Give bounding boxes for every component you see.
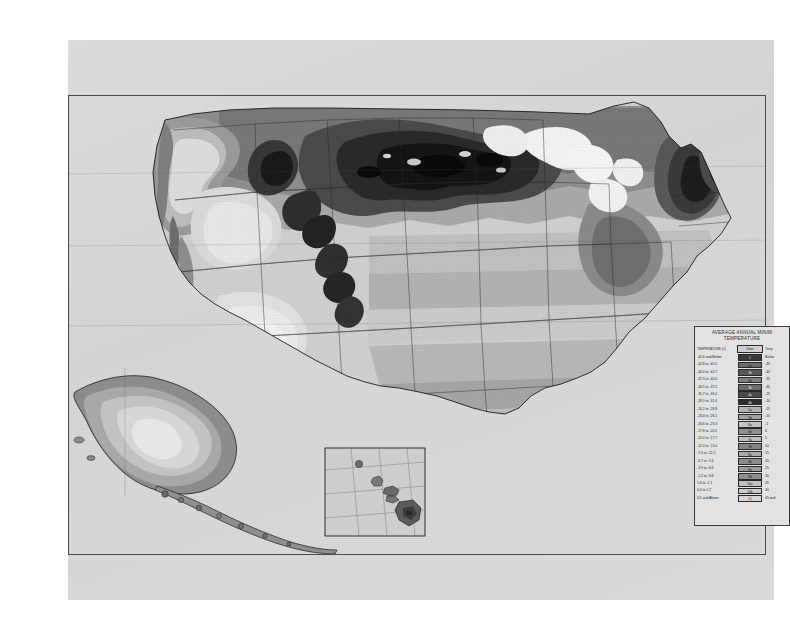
legend-temperature-f: 35 xyxy=(763,480,790,487)
legend-color-swatch: 1 xyxy=(738,354,762,361)
hawaii-inset xyxy=(325,448,425,536)
legend-color-swatch: 11 xyxy=(738,495,762,502)
legend-color-swatch: 8b xyxy=(738,458,762,465)
legend-header-row: TEMPERATURE (C) Zone Temp xyxy=(695,344,790,354)
legend-color-swatch: 8a xyxy=(738,451,762,458)
legend-header-temperature-f: Temp xyxy=(763,344,790,354)
legend-temperature-f: -15 xyxy=(763,406,790,413)
legend-temperature-f: 20 xyxy=(763,458,790,465)
legend-temperature-f: -20 xyxy=(763,398,790,405)
legend-temperature-c: -37.3 to -40.0 xyxy=(695,376,737,383)
legend-title-line1: AVERAGE ANNUAL MINIM xyxy=(712,330,772,335)
legend-temperature-f: -10 xyxy=(763,413,790,420)
legend-color-swatch: 9b xyxy=(738,473,762,480)
legend-zone-cell: 10a xyxy=(737,480,763,487)
legend-color-swatch: 6a xyxy=(738,421,762,428)
legend-temperature-c: -15.0 to -17.7 xyxy=(695,435,737,442)
legend-temperature-c: -34.5 to -37.2 xyxy=(695,384,737,391)
legend-temperature-f: -5 xyxy=(763,421,790,428)
legend-temperature-c: -6.7 to -9.4 xyxy=(695,458,737,465)
legend-temperature-f: 15 xyxy=(763,450,790,457)
legend-temperature-c: 4.4 to 1.7 xyxy=(695,487,737,494)
legend-temperature-f: -40 xyxy=(763,369,790,376)
legend-row: -1.2 to -3.89b30 xyxy=(695,473,790,480)
legend-temperature-c: -17.8 to -20.5 xyxy=(695,428,737,435)
legend-zone-cell: 7a xyxy=(737,435,763,442)
legend-row: -17.8 to -20.56b0 xyxy=(695,428,790,435)
legend-row: -15.0 to -17.77a5 xyxy=(695,435,790,442)
legend-color-swatch: 3a xyxy=(738,377,762,384)
legend-temperature-c: -9.5 to -12.2 xyxy=(695,450,737,457)
legend-color-swatch: 10a xyxy=(738,480,762,487)
legend-temperature-c: -42.8 to -45.5 xyxy=(695,361,737,368)
legend-zone-cell: 5a xyxy=(737,406,763,413)
legend-color-swatch: 7a xyxy=(738,436,762,443)
alaska-inset xyxy=(74,368,337,554)
legend-temperature-c: -45.6 and Below xyxy=(695,354,737,361)
legend-color-swatch: 2b xyxy=(738,369,762,376)
legend-zone-cell: 4a xyxy=(737,391,763,398)
legend-temperature-c: -40.0 to -42.7 xyxy=(695,369,737,376)
legend-color-swatch: 4a xyxy=(738,391,762,398)
legend-temperature-f: 0 xyxy=(763,428,790,435)
legend-row: -34.5 to -37.23b-30 xyxy=(695,384,790,391)
hardiness-zone-map xyxy=(69,96,765,554)
legend-temperature-c: -31.7 to -34.4 xyxy=(695,391,737,398)
legend-temperature-f: 5 xyxy=(763,435,790,442)
legend-color-swatch: 10b xyxy=(738,488,762,495)
legend-temperature-c: -12.3 to -15.0 xyxy=(695,443,737,450)
legend-temperature-f: -45 xyxy=(763,361,790,368)
legend-zone-cell: 3a xyxy=(737,376,763,383)
legend-zone-cell: 2a xyxy=(737,361,763,368)
legend-row: 4.4 to 1.710b40 xyxy=(695,487,790,494)
legend-temperature-f: 40 xyxy=(763,487,790,494)
legend-zone-cell: 6a xyxy=(737,421,763,428)
legend-temperature-f: -25 xyxy=(763,391,790,398)
legend-zone-cell: 4b xyxy=(737,398,763,405)
legend-header-zone-box: Zone xyxy=(737,345,763,353)
legend-temperature-c: -20.6 to -23.3 xyxy=(695,421,737,428)
legend-temperature-f: 45 and xyxy=(763,495,790,502)
legend-header-zone: Zone xyxy=(737,344,763,354)
legend-temperature-f: 25 xyxy=(763,465,790,472)
legend-temperature-c: 4.5 and Above xyxy=(695,495,737,502)
legend-temperature-f: 30 xyxy=(763,473,790,480)
legend-color-swatch: 6b xyxy=(738,428,762,435)
legend-color-swatch: 5a xyxy=(738,406,762,413)
legend-row: -6.7 to -9.48b20 xyxy=(695,458,790,465)
legend-title: AVERAGE ANNUAL MINIM TEMPERATURE xyxy=(695,327,789,344)
legend-temperature-c: -28.9 to -31.6 xyxy=(695,398,737,405)
legend-table-head: TEMPERATURE (C) Zone Temp xyxy=(695,344,790,354)
legend-zone-cell: 7b xyxy=(737,443,763,450)
legend-temperature-f: -35 xyxy=(763,376,790,383)
map-neatline-frame xyxy=(68,95,766,555)
legend-zone-cell: 11 xyxy=(737,495,763,502)
legend-row: -9.5 to -12.28a15 xyxy=(695,450,790,457)
legend-temperature-f: Below xyxy=(763,354,790,361)
legend-color-swatch: 7b xyxy=(738,443,762,450)
legend-zone-cell: 1 xyxy=(737,354,763,361)
legend-row: -26.2 to -28.85a-15 xyxy=(695,406,790,413)
legend-row: 4.5 and Above1145 and xyxy=(695,495,790,502)
legend-zone-cell: 2b xyxy=(737,369,763,376)
legend-zone-cell: 5b xyxy=(737,413,763,420)
legend-row: -42.8 to -45.52a-45 xyxy=(695,361,790,368)
legend-zone-cell: 6b xyxy=(737,428,763,435)
legend-temperature-c: -1.2 to -3.8 xyxy=(695,473,737,480)
legend-row: -28.9 to -31.64b-20 xyxy=(695,398,790,405)
legend-zone-cell: 8b xyxy=(737,458,763,465)
legend-zone-cell: 8a xyxy=(737,450,763,457)
legend-color-swatch: 2a xyxy=(738,362,762,369)
legend-color-swatch: 3b xyxy=(738,384,762,391)
legend-temperature-c: -23.4 to -26.1 xyxy=(695,413,737,420)
legend-row: -40.0 to -42.72b-40 xyxy=(695,369,790,376)
map-legend: AVERAGE ANNUAL MINIM TEMPERATURE TEMPERA… xyxy=(694,326,790,526)
legend-zone-cell: 9b xyxy=(737,473,763,480)
legend-row: -3.9 to -6.69a25 xyxy=(695,465,790,472)
legend-temperature-c: 1.6 to -1.1 xyxy=(695,480,737,487)
legend-row: -45.6 and Below1Below xyxy=(695,354,790,361)
legend-row: -31.7 to -34.44a-25 xyxy=(695,391,790,398)
legend-row: -23.4 to -26.15b-10 xyxy=(695,413,790,420)
legend-row: 1.6 to -1.110a35 xyxy=(695,480,790,487)
